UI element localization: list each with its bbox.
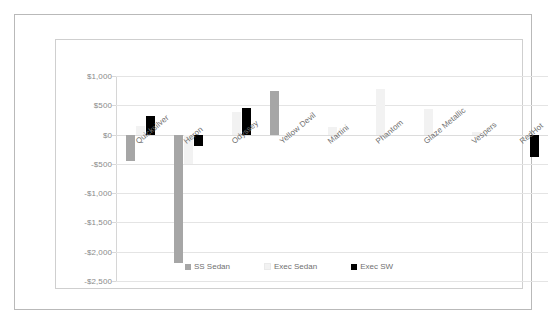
legend-label: SS Sedan xyxy=(194,262,230,271)
y-axis: $1,000$500$0-$500-$1,000-$1,500-$2,000-$… xyxy=(56,76,112,281)
legend-swatch-icon xyxy=(351,264,357,270)
bar-ss-sedan-yellow-devil xyxy=(270,91,279,135)
legend-swatch-icon xyxy=(264,263,271,270)
bar-ss-sedan-heron xyxy=(174,135,183,264)
y-axis-tick-label: -$1,500 xyxy=(58,218,112,227)
y-axis-tick-label: -$2,500 xyxy=(58,277,112,286)
gridline xyxy=(116,281,548,282)
x-axis-category-label: Yellow Devil xyxy=(278,110,318,145)
legend-label: Exec Sedan xyxy=(274,262,317,271)
bar-exec-sedan-phantom xyxy=(376,89,385,134)
y-axis-tick-label: $0 xyxy=(58,130,112,139)
y-axis-tick-label: -$1,000 xyxy=(58,189,112,198)
legend-item-ss-sedan[interactable]: SS Sedan xyxy=(185,262,230,271)
gridline xyxy=(116,105,548,106)
y-axis-tick-label: -$500 xyxy=(58,159,112,168)
y-axis-tick-label: -$2,000 xyxy=(58,247,112,256)
legend-swatch-icon xyxy=(185,264,191,270)
screenshot-outer-frame: $1,000$500$0-$500-$1,000-$1,500-$2,000-$… xyxy=(14,14,532,310)
legend-label: Exec SW xyxy=(360,262,393,271)
gridline xyxy=(116,76,548,77)
y-axis-line xyxy=(116,76,117,281)
legend-item-exec-sw[interactable]: Exec SW xyxy=(351,262,393,271)
chart-legend: SS Sedan Exec Sedan Exec SW xyxy=(56,262,522,271)
y-axis-tick-label: $1,000 xyxy=(58,72,112,81)
chart-container: $1,000$500$0-$500-$1,000-$1,500-$2,000-$… xyxy=(55,39,523,289)
plot-area: QuicksilverHeronOdysseyYellow DevilMarti… xyxy=(116,76,548,281)
y-axis-tick-label: $500 xyxy=(58,101,112,110)
legend-item-exec-sedan[interactable]: Exec Sedan xyxy=(264,262,317,271)
